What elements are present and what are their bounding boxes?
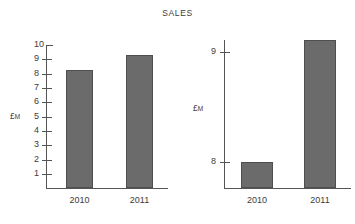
x-axis-line-right	[224, 188, 351, 189]
y-tick-8	[220, 162, 230, 163]
unit-symbol: M	[198, 105, 203, 112]
y-tick-3	[42, 145, 52, 146]
y-tick-6	[42, 102, 52, 103]
x-label-2011-right: 2011	[297, 195, 343, 205]
y-tick-10	[46, 45, 53, 46]
y-tick-label-3: 3	[22, 140, 39, 149]
y-tick-7	[42, 88, 52, 89]
y-tick-2	[42, 160, 52, 161]
y-tick-label-8: 8	[197, 157, 216, 166]
y-tick-label-7: 7	[22, 83, 39, 92]
y-tick-8	[42, 74, 52, 75]
bar-2011-right	[304, 40, 336, 188]
y-tick-label-2: 2	[22, 155, 39, 164]
y-axis-label-right: £M	[193, 104, 203, 113]
y-tick-5	[42, 117, 52, 118]
y-tick-label-10: 10	[22, 40, 44, 49]
x-axis-line-left	[46, 188, 168, 189]
chart-panel-right: £M 9 8 2010 2011	[185, 0, 355, 224]
y-tick-9	[220, 52, 230, 53]
y-tick-4	[42, 131, 52, 132]
chart-panel-left: £M 10 9 8 7 6 5 4 3 2 1 2010 2011	[0, 0, 185, 224]
y-axis-line-right	[224, 40, 225, 188]
bar-2010-left	[66, 70, 93, 188]
y-tick-label-9: 9	[22, 54, 39, 63]
y-tick-label-6: 6	[22, 97, 39, 106]
x-label-2010-right: 2010	[234, 195, 280, 205]
bar-2011-left	[126, 55, 153, 188]
sales-chart-figure: SALES £M 10 9 8 7 6 5 4 3 2 1	[0, 0, 355, 224]
x-label-2011-left: 2011	[117, 195, 162, 205]
y-tick-1	[42, 174, 52, 175]
y-tick-9	[42, 59, 52, 60]
y-axis-label-left: £M	[10, 112, 20, 121]
y-tick-label-5: 5	[22, 112, 39, 121]
y-tick-label-1: 1	[22, 169, 39, 178]
y-tick-label-8: 8	[22, 69, 39, 78]
x-label-2010-left: 2010	[57, 195, 102, 205]
bar-2010-right	[241, 162, 273, 188]
y-tick-label-9: 9	[197, 47, 216, 56]
y-tick-label-4: 4	[22, 126, 39, 135]
unit-symbol: M	[15, 113, 20, 120]
